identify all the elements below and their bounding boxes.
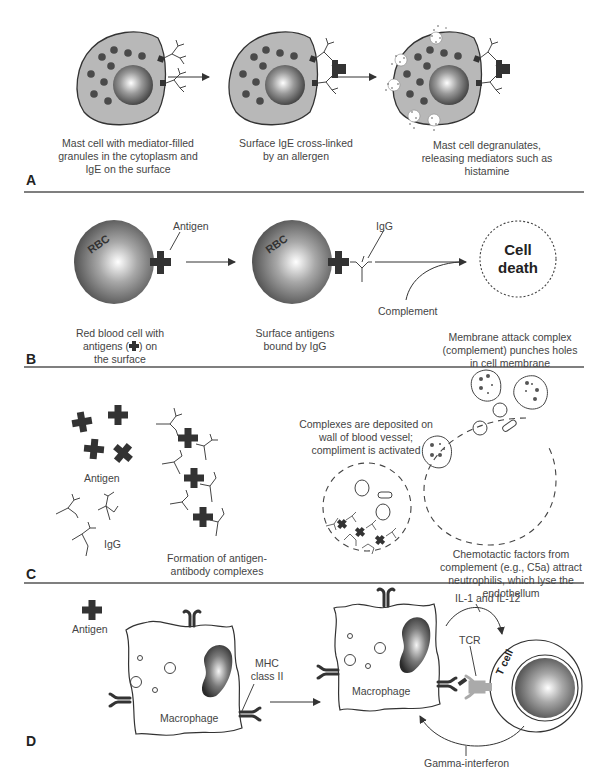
cell-death-label: Cell death	[480, 241, 556, 277]
panel-label-c: C	[26, 566, 36, 582]
complement-label: Complement	[378, 305, 438, 317]
igg-antibody	[350, 256, 372, 282]
mast-cell-3-degranulating	[385, 25, 510, 131]
caption-a3: Mast cell degranulates, releasing mediat…	[420, 139, 554, 178]
caption-a2: Surface IgE cross-linked by an allergen	[234, 137, 358, 163]
caption-b1: Red blood cell with antigens () on the s…	[70, 327, 170, 366]
antigen-label: Antigen	[173, 220, 209, 232]
panel-d	[82, 589, 582, 756]
panel-label-b: B	[26, 351, 36, 367]
panel-label-a: A	[26, 172, 36, 188]
panel-c	[56, 370, 556, 556]
mast-cell-1	[77, 32, 186, 125]
igg-label-c: IgG	[104, 538, 121, 550]
mast-cell-2	[229, 32, 346, 125]
macrophage-label-2: Macrophage	[352, 685, 410, 697]
panel-a	[77, 25, 510, 131]
caption-c2: Complexes are deposited on wall of blood…	[296, 418, 436, 457]
antigen-label-d: Antigen	[72, 623, 108, 635]
caption-b3: Membrane attack complex (complement) pun…	[440, 331, 580, 370]
cell-death-line2: death	[498, 259, 538, 276]
t-cell	[466, 640, 582, 732]
blood-vessel-deposits	[323, 463, 411, 554]
ige-antibodies	[164, 40, 186, 92]
caption-b2: Surface antigens bound by IgG	[250, 327, 340, 353]
rbc-2	[252, 220, 332, 304]
neutrophil-chemotaxis	[422, 370, 556, 545]
il-arrow	[446, 607, 502, 634]
rbc-1	[74, 220, 154, 304]
mhc-label: MHC class II	[250, 657, 284, 683]
gamma-interferon-label: Gamma-interferon	[424, 757, 509, 769]
antigen-label-c: Antigen	[84, 472, 120, 484]
caption-a1: Mast cell with mediator-filled granules …	[58, 137, 198, 176]
antigen-fragment	[458, 677, 468, 685]
antigen-antibody-complexes	[156, 408, 224, 536]
antigens	[70, 405, 137, 467]
cell-death-line1: Cell	[504, 241, 532, 258]
allergen	[332, 60, 346, 78]
il-label: IL-1 and IL-12	[455, 592, 520, 604]
igg-label: IgG	[376, 220, 393, 232]
nucleus	[113, 65, 153, 105]
tcr-receptor	[466, 676, 484, 698]
caption-c1: Formation of antigen-antibody complexes	[162, 552, 272, 578]
antigen-cross	[82, 600, 102, 620]
antigen-inline-icon	[129, 341, 139, 351]
tcr-label: TCR	[459, 634, 481, 646]
panel-label-d: D	[26, 733, 36, 749]
immune-hypersensitivity-figure: T cell RBC RBC	[0, 0, 608, 778]
macrophage-label-1: Macrophage	[160, 712, 218, 724]
